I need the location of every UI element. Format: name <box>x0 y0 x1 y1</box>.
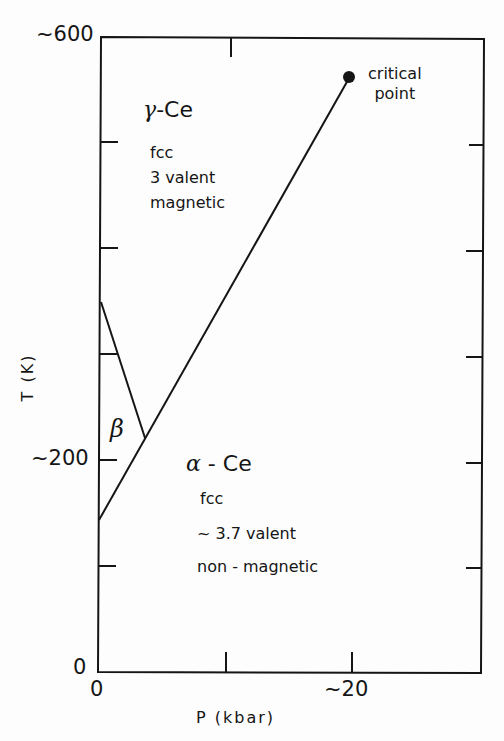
gamma-valence: 3 valent <box>150 165 225 190</box>
y-axis-title: T (K) <box>18 354 37 402</box>
alpha-magnetism: non - magnetic <box>197 556 318 578</box>
alpha-symbol: α <box>186 451 201 476</box>
plot-svg <box>0 0 504 741</box>
gamma-ce-text: -Ce <box>156 97 193 122</box>
x-axis-title: P (kbar) <box>196 708 275 727</box>
phase-diagram: ~600 ~200 0 0 ~20 P (kbar) T (K) critica… <box>0 0 504 741</box>
gamma-properties: fcc 3 valent magnetic <box>150 140 225 215</box>
gamma-ce-label: γ-Ce <box>143 97 193 122</box>
alpha-ce-text: - Ce <box>201 451 252 476</box>
y-tick-label-600: ~600 <box>36 22 94 46</box>
y-tick-label-0: 0 <box>73 655 86 679</box>
x-tick-label-0: 0 <box>90 677 103 701</box>
beta-phase-label: β <box>110 415 124 443</box>
y-tick-label-200: ~200 <box>31 446 89 470</box>
critical-point-label-line1: critical <box>368 64 422 84</box>
alpha-valence: ~ 3.7 valent <box>197 523 296 545</box>
gamma-structure: fcc <box>150 140 225 165</box>
gamma-symbol: γ <box>143 97 156 122</box>
x-tick-label-20: ~20 <box>324 677 368 701</box>
alpha-structure: fcc <box>200 488 223 510</box>
gamma-magnetism: magnetic <box>150 190 225 215</box>
critical-point-marker <box>343 71 355 83</box>
alpha-ce-label: α - Ce <box>186 451 252 476</box>
critical-point-label: critical point <box>368 64 422 104</box>
critical-point-label-line2: point <box>368 84 422 104</box>
